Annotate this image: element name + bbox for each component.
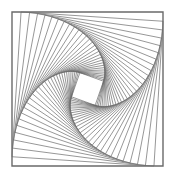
- square-outline: [71, 73, 103, 106]
- square-outline: [59, 60, 116, 118]
- square-outline: [19, 19, 156, 159]
- square-outline: [32, 33, 142, 145]
- square-outline: [35, 36, 139, 142]
- nested-squares-figure: [0, 0, 171, 179]
- square-outline: [71, 72, 104, 106]
- square-outline: [27, 27, 149, 151]
- square-outline: [21, 21, 153, 156]
- square-outline: [42, 42, 134, 136]
- square-outline: [45, 45, 131, 132]
- square-lines: [12, 12, 163, 166]
- square-outline: [71, 72, 105, 106]
- square-outline: [17, 17, 158, 161]
